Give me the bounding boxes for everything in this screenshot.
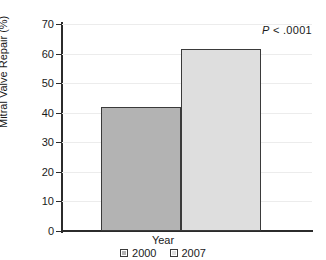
y-axis-label: Mitral Valve Repair (%) [0,16,9,128]
legend-item-2000: 2000 [120,247,156,259]
y-tick-mark [56,24,62,25]
y-tick-mark [56,201,62,202]
legend-label-2000: 2000 [132,247,156,259]
y-tick-label: 70 [42,19,54,30]
x-axis-label: Year [0,234,326,246]
y-tick-mark [56,231,62,232]
bar-2007 [181,49,261,231]
y-tick-label: 30 [42,137,54,148]
y-tick-mark [56,113,62,114]
gridline [62,24,312,25]
legend-swatch-2007 [170,249,178,257]
y-tick-label: 20 [42,166,54,177]
y-tick-mark [56,142,62,143]
legend-swatch-2000 [120,249,128,257]
y-tick-label: 50 [42,78,54,89]
y-tick-label: 10 [42,196,54,207]
y-tick-label: 40 [42,107,54,118]
legend-swatch-fill [121,250,127,256]
y-tick-label: 60 [42,48,54,59]
legend: 20002007 [0,247,326,259]
legend-swatch-fill [171,250,177,256]
y-tick-mark [56,83,62,84]
legend-label-2007: 2007 [182,247,206,259]
bar-chart-figure: P < .0001 Mitral Valve Repair (%) 010203… [0,0,326,260]
y-tick-mark [56,172,62,173]
y-tick-mark [56,54,62,55]
legend-item-2007: 2007 [170,247,206,259]
plot-area: 010203040506070 [62,24,312,231]
bar-2000 [101,107,181,231]
